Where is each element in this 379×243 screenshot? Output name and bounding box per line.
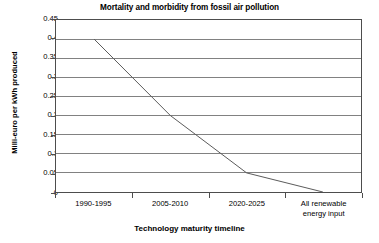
chart-container: Mortality and morbidity from fossil air … (0, 0, 379, 243)
x-tick-mark (132, 193, 133, 198)
data-series-line (56, 20, 361, 192)
x-category-label: All renewable energy input (285, 199, 362, 218)
chart-title: Mortality and morbidity from fossil air … (0, 3, 379, 12)
x-category-label: 2020-2025 (209, 199, 286, 209)
plot-area (55, 19, 362, 193)
x-category-label: 1990-1995 (55, 199, 132, 209)
x-tick-mark (209, 193, 210, 198)
x-tick-mark (55, 193, 56, 198)
x-tick-mark (285, 193, 286, 198)
x-category-label: 2005-2010 (132, 199, 209, 209)
x-tick-mark (362, 193, 363, 198)
x-axis-title: Technology maturity timeline (0, 224, 379, 233)
